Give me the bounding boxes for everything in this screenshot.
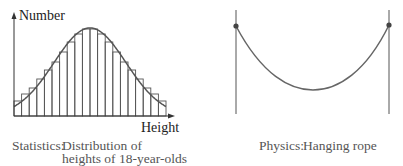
histogram-bar	[90, 29, 98, 116]
histogram-bar	[143, 88, 151, 116]
histogram-bar	[60, 52, 68, 116]
right-attachment-dot	[386, 22, 391, 27]
histogram-bar	[52, 62, 60, 116]
histogram-bar	[120, 62, 128, 116]
stats-caption-line2: heights of 18-year-olds	[62, 151, 187, 166]
left-attachment-dot	[233, 23, 238, 28]
histogram-bar	[82, 29, 90, 116]
histogram	[14, 29, 166, 116]
stats-caption-prefix: Statistics:	[12, 138, 65, 153]
histogram-bar	[151, 94, 159, 116]
hanging-rope	[236, 25, 389, 90]
x-axis-label: Height	[141, 120, 179, 136]
histogram-bar	[29, 88, 37, 116]
physics-caption-prefix: Physics:	[259, 138, 304, 153]
histogram-bar	[105, 42, 113, 116]
histogram-bar	[44, 70, 52, 116]
x-axis-arrow-icon	[168, 114, 175, 119]
histogram-bar	[128, 70, 136, 116]
histogram-bar	[98, 34, 106, 116]
y-axis-arrow-icon	[12, 12, 17, 19]
y-axis-label: Number	[19, 8, 65, 24]
histogram-bar	[67, 42, 75, 116]
physics-caption-text: Hanging rope	[303, 138, 377, 153]
histogram-bar	[75, 34, 83, 116]
histogram-bar	[22, 94, 30, 116]
histogram-bar	[113, 52, 121, 116]
